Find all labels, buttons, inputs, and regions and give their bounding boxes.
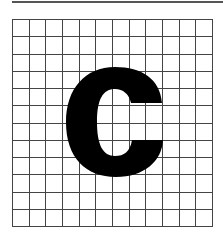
grid-figure: C (12, 19, 213, 227)
top-rule (12, 1, 223, 3)
letter-c-glyph (12, 19, 213, 227)
